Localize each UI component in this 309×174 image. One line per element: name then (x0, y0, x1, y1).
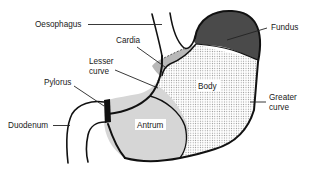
stomach-diagram: Oesophagus Cardia Lesser curve Pylorus D… (0, 0, 309, 174)
pylorus-band (104, 99, 111, 123)
lesser-curve-label-line1: Lesser (89, 57, 114, 66)
oesophagus-label: Oesophagus (35, 20, 81, 29)
body-label: Body (198, 82, 218, 91)
greater-curve-label-line2: curve (269, 103, 289, 112)
greater-curve-label-line1: Greater (269, 93, 297, 102)
oesophagus-left-wall (152, 14, 162, 56)
antrum-label: Antrum (137, 121, 164, 130)
pylorus-label: Pylorus (44, 78, 71, 87)
cardia-label: Cardia (116, 36, 141, 45)
duodenum-outer-wall (67, 102, 104, 164)
lesser-curve-label-line2: curve (89, 67, 109, 76)
duodenum-label: Duodenum (8, 121, 48, 130)
fundus-label: Fundus (271, 23, 298, 32)
lesser-curve-leader (115, 70, 158, 88)
oesophagus-right-wall (170, 13, 195, 49)
duodenum-inner-wall (87, 122, 106, 162)
